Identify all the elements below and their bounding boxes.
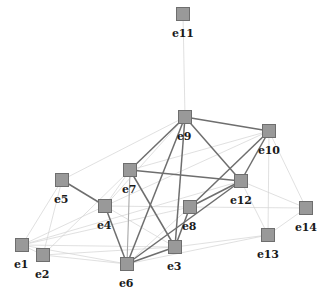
- graph-edge: [105, 206, 190, 207]
- network-graph: e1e2e3e4e5e6e7e8e9e10e11e12e13e14: [0, 0, 332, 294]
- graph-node-label-e5: e5: [54, 194, 68, 205]
- graph-node-e5[interactable]: [55, 173, 69, 187]
- graph-node-e3[interactable]: [168, 240, 182, 254]
- graph-node-e1[interactable]: [15, 238, 29, 252]
- graph-node-label-e7: e7: [122, 184, 136, 195]
- graph-node-label-e3: e3: [167, 261, 181, 272]
- graph-edge: [130, 170, 175, 247]
- graph-node-e9[interactable]: [178, 110, 192, 124]
- graph-node-label-e9: e9: [177, 131, 191, 142]
- graph-edge: [105, 117, 185, 206]
- graph-node-label-e2: e2: [35, 269, 49, 280]
- graph-node-e14[interactable]: [299, 201, 313, 215]
- graph-edge: [269, 131, 306, 208]
- graph-node-label-e13: e13: [257, 249, 279, 260]
- graph-edge: [190, 207, 306, 208]
- graph-node-label-e11: e11: [172, 28, 194, 39]
- graph-node-label-e8: e8: [182, 221, 196, 232]
- graph-node-label-e1: e1: [14, 259, 28, 270]
- graph-node-label-e6: e6: [119, 278, 133, 289]
- graph-node-e2[interactable]: [36, 248, 50, 262]
- graph-node-e13[interactable]: [261, 228, 275, 242]
- graph-node-e11[interactable]: [176, 7, 190, 21]
- graph-node-label-e12: e12: [230, 195, 252, 206]
- graph-node-e8[interactable]: [183, 200, 197, 214]
- graph-node-label-e4: e4: [97, 220, 111, 231]
- graph-node-label-e14: e14: [295, 222, 317, 233]
- graph-edge: [185, 117, 241, 181]
- graph-edge: [175, 235, 268, 247]
- graph-edge: [43, 180, 62, 255]
- graph-node-e6[interactable]: [120, 257, 134, 271]
- graph-node-e12[interactable]: [234, 174, 248, 188]
- graph-edge: [22, 206, 105, 245]
- graph-edge: [130, 170, 241, 181]
- graph-edge: [185, 117, 269, 131]
- graph-node-label-e10: e10: [258, 145, 280, 156]
- graph-node-e7[interactable]: [123, 163, 137, 177]
- graph-edge: [241, 181, 268, 235]
- graph-edge: [105, 206, 175, 247]
- graph-edge: [105, 206, 127, 264]
- graph-node-e4[interactable]: [98, 199, 112, 213]
- graph-node-e10[interactable]: [262, 124, 276, 138]
- graph-edge: [127, 207, 190, 264]
